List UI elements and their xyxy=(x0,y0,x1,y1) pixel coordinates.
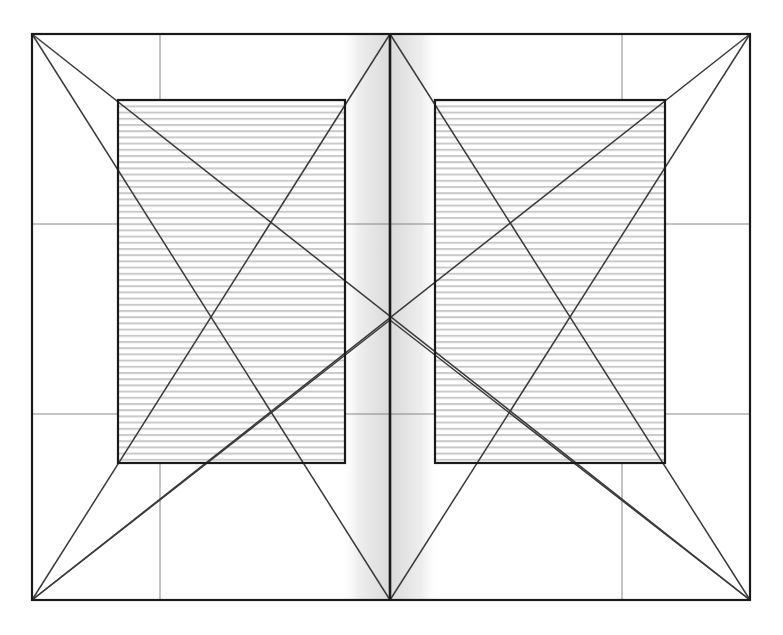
canon-diagram-svg xyxy=(0,0,783,635)
left-text-block-fill xyxy=(118,100,345,463)
right-text-block-fill xyxy=(435,100,665,463)
canon-diagram-stage xyxy=(0,0,783,635)
